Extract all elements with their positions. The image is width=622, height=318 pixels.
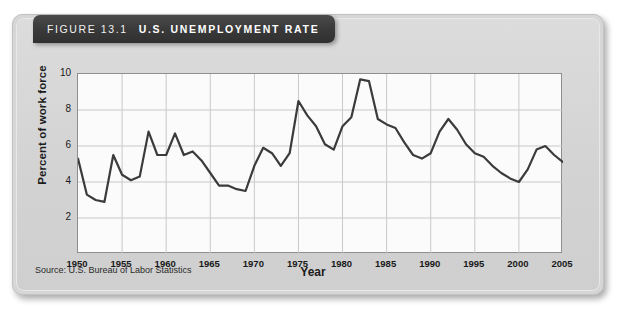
y-tick-8: 8 xyxy=(45,103,71,114)
unemployment-line-chart xyxy=(78,74,563,254)
figure-title: U.S. UNEMPLOYMENT RATE xyxy=(139,23,320,35)
figure-number-label: FIGURE 13.1 xyxy=(47,23,128,35)
y-tick-10: 10 xyxy=(45,67,71,78)
figure-card: FIGURE 13.1 U.S. UNEMPLOYMENT RATE Perce… xyxy=(12,14,604,295)
x-tick-1990: 1990 xyxy=(410,258,450,269)
x-tick-1965: 1965 xyxy=(189,258,229,269)
x-tick-2000: 2000 xyxy=(498,258,538,269)
chart-area: Percent of work force 246810 19501955196… xyxy=(13,43,605,296)
figure-screenshot: FIGURE 13.1 U.S. UNEMPLOYMENT RATE Perce… xyxy=(0,0,622,318)
figure-title-bar: FIGURE 13.1 U.S. UNEMPLOYMENT RATE xyxy=(33,15,335,43)
x-tick-2005: 2005 xyxy=(542,258,582,269)
x-tick-1995: 1995 xyxy=(454,258,494,269)
y-axis-label: Percent of work force xyxy=(36,50,48,200)
y-tick-6: 6 xyxy=(45,139,71,150)
unemployment-rate-line xyxy=(78,79,563,201)
figure-source: Source: U.S. Bureau of Labor Statistics xyxy=(35,265,192,275)
y-tick-4: 4 xyxy=(45,175,71,186)
plot-frame xyxy=(77,73,562,253)
x-axis-label: Year xyxy=(253,265,373,279)
y-tick-2: 2 xyxy=(45,211,71,222)
